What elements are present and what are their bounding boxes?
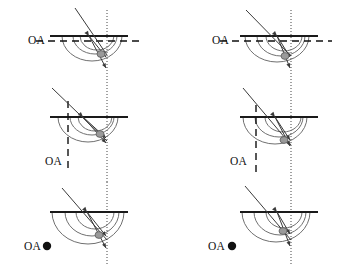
optical-axis-label: OA [208,240,226,252]
optical-axis-label: OA [230,155,248,167]
focal-blob [97,51,105,58]
focal-blob [280,137,288,144]
optical-axis-point-marker [228,242,236,250]
focal-blob [95,232,103,239]
optics-ray-diagram: OAOAOAOAOAOA [0,0,345,271]
focal-blob [96,131,104,138]
optical-axis-label: OA [45,155,63,167]
optical-axis-label: OA [24,240,42,252]
optical-axis-label: OA [28,34,46,46]
optical-axis-label: OA [212,34,230,46]
focal-blob [279,228,287,235]
optical-axis-point-marker [43,242,51,250]
focal-blob [281,53,289,60]
